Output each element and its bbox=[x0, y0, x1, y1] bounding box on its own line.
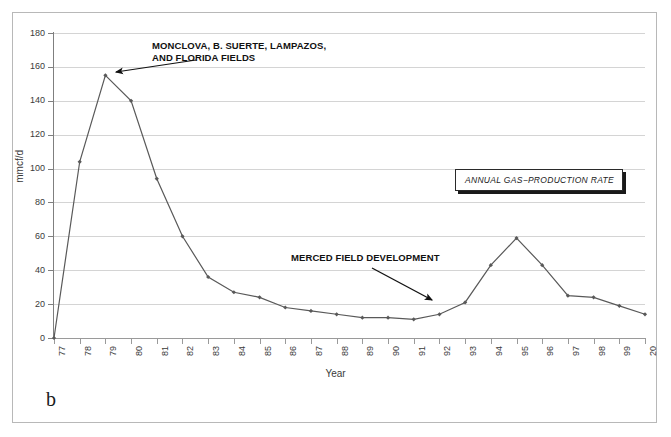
gridline bbox=[54, 67, 645, 68]
y-tick-mark bbox=[48, 270, 53, 271]
x-tick-mark bbox=[491, 339, 492, 344]
x-tick-mark bbox=[54, 339, 55, 344]
x-tick-mark bbox=[157, 339, 158, 344]
x-tick-mark bbox=[388, 339, 389, 344]
y-tick-mark bbox=[48, 169, 53, 170]
x-tick-label: 78 bbox=[84, 346, 93, 356]
gridline bbox=[54, 202, 645, 203]
x-tick-mark bbox=[645, 339, 646, 344]
x-tick-label: 87 bbox=[315, 346, 324, 356]
figure-frame bbox=[12, 12, 657, 423]
x-tick-mark bbox=[542, 339, 543, 344]
x-tick-label: 93 bbox=[469, 346, 478, 356]
x-tick-label: 91 bbox=[418, 346, 427, 356]
x-tick-mark bbox=[182, 339, 183, 344]
gridline bbox=[54, 33, 645, 34]
x-axis-title: Year bbox=[0, 368, 671, 379]
x-tick-mark bbox=[568, 339, 569, 344]
y-tick-mark bbox=[48, 101, 53, 102]
x-tick-mark bbox=[105, 339, 106, 344]
y-tick-mark bbox=[48, 304, 53, 305]
x-tick-label: 92 bbox=[443, 346, 452, 356]
x-tick-mark bbox=[594, 339, 595, 344]
x-tick-label: 97 bbox=[572, 346, 581, 356]
y-tick-mark bbox=[48, 338, 53, 339]
x-tick-mark bbox=[311, 339, 312, 344]
y-tick-label: 0 bbox=[0, 334, 45, 343]
x-tick-label: 81 bbox=[161, 346, 170, 356]
x-tick-label: 77 bbox=[58, 346, 67, 356]
y-tick-mark bbox=[48, 33, 53, 34]
x-tick-label: 86 bbox=[289, 346, 298, 356]
x-tick-label: 98 bbox=[598, 346, 607, 356]
x-tick-mark bbox=[619, 339, 620, 344]
x-tick-mark bbox=[80, 339, 81, 344]
y-tick-label: 80 bbox=[0, 198, 45, 207]
y-axis-title: mmcf/d bbox=[14, 150, 25, 183]
x-tick-label: 89 bbox=[366, 346, 375, 356]
y-tick-label: 160 bbox=[0, 62, 45, 71]
gridline bbox=[54, 135, 645, 136]
y-tick-mark bbox=[48, 202, 53, 203]
y-tick-label: 140 bbox=[0, 96, 45, 105]
x-tick-mark bbox=[131, 339, 132, 344]
y-tick-mark bbox=[48, 236, 53, 237]
x-tick-label: 94 bbox=[495, 346, 504, 356]
x-tick-mark bbox=[465, 339, 466, 344]
y-tick-label: 120 bbox=[0, 130, 45, 139]
y-tick-label: 60 bbox=[0, 232, 45, 241]
x-tick-label: 90 bbox=[392, 346, 401, 356]
x-tick-label: 85 bbox=[264, 346, 273, 356]
x-tick-mark bbox=[285, 339, 286, 344]
x-tick-label: 80 bbox=[135, 346, 144, 356]
x-tick-mark bbox=[337, 339, 338, 344]
x-tick-label: 99 bbox=[623, 346, 632, 356]
y-axis-line bbox=[53, 32, 54, 339]
y-tick-mark bbox=[48, 135, 53, 136]
x-tick-mark bbox=[208, 339, 209, 344]
legend-box: ANNUAL GAS−PRODUCTION RATE bbox=[455, 169, 623, 191]
gridline bbox=[54, 270, 645, 271]
x-tick-mark bbox=[260, 339, 261, 344]
gridline bbox=[54, 236, 645, 237]
x-tick-label: 83 bbox=[212, 346, 221, 356]
y-tick-label: 20 bbox=[0, 300, 45, 309]
x-tick-label: 96 bbox=[546, 346, 555, 356]
x-tick-label: 82 bbox=[186, 346, 195, 356]
x-tick-label: 84 bbox=[238, 346, 247, 356]
x-tick-label: 79 bbox=[109, 346, 118, 356]
y-tick-mark bbox=[48, 67, 53, 68]
y-tick-label: 40 bbox=[0, 266, 45, 275]
annotation-merced: MERCED FIELD DEVELOPMENT bbox=[291, 252, 440, 264]
x-tick-label: 95 bbox=[521, 346, 530, 356]
x-tick-mark bbox=[362, 339, 363, 344]
gridline bbox=[54, 304, 645, 305]
x-tick-label: 20 bbox=[649, 346, 658, 356]
y-tick-label: 180 bbox=[0, 29, 45, 38]
x-tick-mark bbox=[414, 339, 415, 344]
x-tick-mark bbox=[517, 339, 518, 344]
panel-label: b bbox=[46, 388, 56, 411]
x-tick-mark bbox=[234, 339, 235, 344]
gridline bbox=[54, 101, 645, 102]
x-tick-mark bbox=[439, 339, 440, 344]
annotation-monclova: MONCLOVA, B. SUERTE, LAMPAZOS, AND FLORI… bbox=[152, 40, 326, 64]
x-tick-label: 88 bbox=[341, 346, 350, 356]
chart-figure: 020406080100120140160180 777879808182838… bbox=[0, 0, 671, 437]
x-axis-line bbox=[53, 338, 646, 339]
